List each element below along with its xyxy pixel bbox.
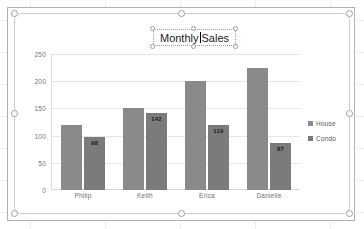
legend-swatch-house-icon <box>308 121 313 126</box>
legend-item-house[interactable]: House <box>308 120 336 127</box>
chart-object[interactable]: 250 200 150 100 50 0 9814211987 PhilipKe… <box>7 7 355 221</box>
bar-house-philip[interactable] <box>61 125 82 190</box>
data-label: 119 <box>213 128 223 134</box>
legend-swatch-condo-icon <box>308 136 313 141</box>
chart-title-word-2: Sales <box>202 32 230 44</box>
y-tick-50: 50 <box>38 159 46 166</box>
title-handle-bottom-right[interactable] <box>233 44 238 49</box>
chart-title-word-1: Monthly <box>160 32 199 44</box>
plot-area[interactable]: 250 200 150 100 50 0 9814211987 <box>52 54 300 190</box>
chart-legend[interactable]: House Condo <box>308 120 336 150</box>
excel-chart-screenshot: 250 200 150 100 50 0 9814211987 PhilipKe… <box>0 0 364 229</box>
title-handle-top-right[interactable] <box>233 26 238 31</box>
chart-handle-top-left[interactable] <box>11 10 18 17</box>
x-label-philip: Philip <box>52 192 114 206</box>
data-label: 142 <box>151 116 162 122</box>
y-tick-100: 100 <box>35 132 46 139</box>
data-label: 87 <box>277 146 284 152</box>
bar-group: 142 <box>114 54 176 190</box>
bar-house-keith[interactable] <box>123 108 144 190</box>
bar-condo-philip[interactable]: 98 <box>84 137 105 190</box>
legend-label-house: House <box>316 120 336 127</box>
y-tick-0: 0 <box>42 187 46 194</box>
data-label: 98 <box>91 140 98 146</box>
chart-handle-bottom-center[interactable] <box>178 210 185 217</box>
x-axis-labels: PhilipKeithEricaDanielle <box>52 192 300 206</box>
chart-handle-top-center[interactable] <box>178 10 185 17</box>
x-label-erica: Erica <box>176 192 238 206</box>
legend-item-condo[interactable]: Condo <box>308 135 336 142</box>
bar-condo-danielle[interactable]: 87 <box>270 143 291 190</box>
x-label-danielle: Danielle <box>238 192 300 206</box>
chart-handle-bottom-right[interactable] <box>346 210 353 217</box>
bar-house-erica[interactable] <box>185 81 206 190</box>
bar-condo-erica[interactable]: 119 <box>208 125 229 190</box>
bar-groups: 9814211987 <box>52 54 300 190</box>
bar-group: 119 <box>176 54 238 190</box>
bar-group: 98 <box>52 54 114 190</box>
chart-handle-top-right[interactable] <box>346 10 353 17</box>
legend-label-condo: Condo <box>316 135 336 142</box>
title-handle-top-left[interactable] <box>150 26 155 31</box>
bar-condo-keith[interactable]: 142 <box>146 113 167 190</box>
x-label-keith: Keith <box>114 192 176 206</box>
y-tick-150: 150 <box>35 105 46 112</box>
y-tick-250: 250 <box>35 51 46 58</box>
chart-handle-middle-left[interactable] <box>11 110 18 117</box>
title-handle-bottom-left[interactable] <box>150 44 155 49</box>
bar-house-danielle[interactable] <box>247 68 268 190</box>
text-caret <box>200 32 201 43</box>
chart-title-text[interactable]: MonthlySales <box>160 32 229 44</box>
chart-handle-middle-right[interactable] <box>346 110 353 117</box>
title-handle-top-center[interactable] <box>191 26 196 31</box>
y-tick-200: 200 <box>35 78 46 85</box>
title-handle-bottom-center[interactable] <box>191 44 196 49</box>
chart-handle-bottom-left[interactable] <box>11 210 18 217</box>
bar-group: 87 <box>238 54 300 190</box>
